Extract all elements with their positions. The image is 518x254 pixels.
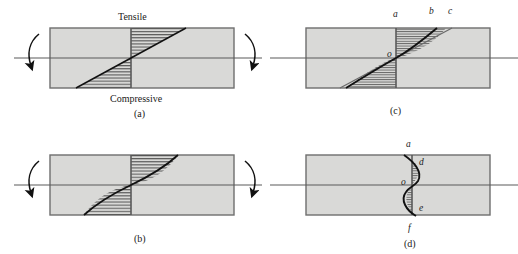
point-label-c-o: o [387,49,392,59]
compressive-label: Compressive [110,93,162,104]
caption-c: (c) [390,105,401,116]
moment-arrow-left-a [29,34,39,66]
point-label-c-b: b [429,6,434,16]
point-label-c-c: c [448,6,452,16]
caption-d: (d) [404,238,416,249]
caption-b: (b) [134,233,146,244]
panel-c [270,28,518,88]
point-label-d-e: e [419,203,423,213]
panel-b [14,155,262,215]
bending-stress-figure: Tensile Compressive (a) (b) (c) (d) a b … [0,0,518,254]
figure-canvas [0,0,518,254]
point-label-d-a: a [406,139,411,149]
moment-arrow-right-a [245,34,255,66]
panel-a [14,28,262,88]
point-label-d-f: f [408,223,411,233]
point-label-d-o: o [401,177,406,187]
panel-d [270,155,518,216]
moment-arrow-right-b [245,161,255,193]
point-label-c-a: a [393,9,398,19]
moment-arrow-left-b [29,161,39,193]
point-label-d-d: d [419,157,424,167]
tensile-label: Tensile [118,11,147,22]
caption-a: (a) [134,108,145,119]
